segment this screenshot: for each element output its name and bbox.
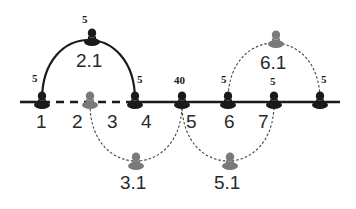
node-6-1 — [268, 30, 284, 48]
node-7 — [266, 91, 282, 109]
branch-label-2-1: 2.1 — [76, 50, 102, 71]
node-label-3: 3 — [107, 111, 118, 132]
node-8 — [312, 91, 328, 109]
node-label-6: 6 — [224, 111, 235, 132]
capacity-8: 5 — [321, 73, 327, 85]
node-2-1 — [84, 28, 100, 46]
node-label-1: 1 — [36, 111, 47, 132]
node-2 — [82, 91, 98, 109]
branch-label-5-1: 5.1 — [214, 172, 240, 193]
node-4 — [127, 91, 143, 109]
capacity-2-1: 5 — [82, 13, 88, 25]
node-label-5: 5 — [186, 111, 197, 132]
capacity-5: 40 — [174, 74, 186, 86]
branch-label-3-1: 3.1 — [120, 172, 146, 193]
node-6 — [220, 91, 236, 109]
node-label-7: 7 — [258, 111, 269, 132]
capacity-1: 5 — [32, 72, 38, 84]
capacity-4: 5 — [137, 73, 143, 85]
node-1 — [34, 91, 50, 109]
capacity-7: 5 — [270, 75, 276, 87]
capacity-6: 5 — [221, 73, 227, 85]
node-3-1 — [128, 152, 144, 170]
node-5 — [174, 91, 190, 109]
node-label-4: 4 — [141, 111, 152, 132]
node-label-2: 2 — [72, 111, 83, 132]
branch-label-6-1: 6.1 — [260, 52, 286, 73]
network-diagram: 1 2 3 4 5 6 7 2.1 6.1 3.1 5.1 5 5 5 40 5… — [0, 0, 356, 209]
